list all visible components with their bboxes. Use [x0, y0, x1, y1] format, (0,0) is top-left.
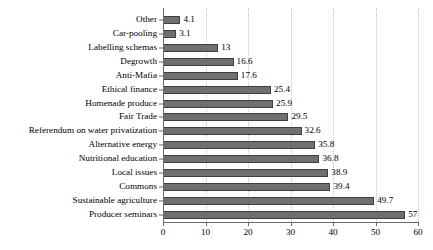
category-label: Sustainable agriculture	[73, 196, 157, 205]
bar-rows: Other4.1Car-pooling3.1Labelling schemas1…	[163, 8, 418, 222]
category-label: Degrowth	[120, 57, 157, 66]
category-label: Labelling schemas	[88, 43, 157, 52]
bar: 36.8	[163, 155, 319, 163]
bar-row: Other4.1	[163, 13, 418, 27]
bar-value-label: 4.1	[183, 16, 194, 25]
bar-value-label: 35.8	[318, 141, 334, 150]
bar-row: Local issues38.9	[163, 166, 418, 180]
x-tick-mark	[163, 222, 164, 226]
gridline	[418, 8, 419, 222]
bar-row: Referendum on water privatization32.6	[163, 124, 418, 138]
bar-value-label: 32.6	[305, 127, 321, 136]
bar-row: Labelling schemas13	[163, 41, 418, 55]
category-label: Producer seminars	[89, 210, 157, 219]
x-tick-label: 10	[201, 228, 210, 237]
category-label: Nutritional education	[79, 155, 157, 164]
bar-row: Anti-Mafia17.6	[163, 69, 418, 83]
category-label: Other	[136, 16, 157, 25]
bar: 57	[163, 211, 405, 219]
bar: 39.4	[163, 183, 330, 191]
bar-value-label: 36.8	[322, 155, 338, 164]
category-label: Homenade produce	[85, 99, 157, 108]
category-label: Fair Trade	[119, 113, 157, 122]
bar: 38.9	[163, 169, 328, 177]
x-tick-label: 60	[413, 228, 422, 237]
bar-row: Nutritional education36.8	[163, 152, 418, 166]
bar-value-label: 25.9	[276, 99, 292, 108]
x-tick-label: 0	[161, 228, 166, 237]
bar: 13	[163, 44, 218, 52]
bar-value-label: 3.1	[179, 29, 190, 38]
bar-row: Homenade produce25.9	[163, 97, 418, 111]
plot-area: Other4.1Car-pooling3.1Labelling schemas1…	[163, 8, 418, 222]
category-label: Ethical finance	[102, 85, 157, 94]
category-label: Local issues	[112, 168, 157, 177]
bar-row: Fair Trade29.5	[163, 111, 418, 125]
category-axis-line	[163, 8, 164, 222]
horizontal-bar-chart: Other4.1Car-pooling3.1Labelling schemas1…	[0, 0, 433, 250]
bar-value-label: 16.6	[237, 57, 253, 66]
x-tick-label: 20	[243, 228, 252, 237]
bar-value-label: 39.4	[333, 182, 349, 191]
x-tick-mark	[291, 222, 292, 226]
x-tick-label: 30	[286, 228, 295, 237]
bar: 25.4	[163, 86, 271, 94]
bar: 35.8	[163, 141, 315, 149]
category-label: Car-pooling	[113, 29, 157, 38]
x-tick-mark	[248, 222, 249, 226]
bar-row: Degrowth16.6	[163, 55, 418, 69]
bar-row: Car-pooling3.1	[163, 27, 418, 41]
bar-value-label: 57	[408, 210, 417, 219]
bar-value-label: 29.5	[291, 113, 307, 122]
x-tick-mark	[206, 222, 207, 226]
category-label: Commons	[119, 182, 157, 191]
bar: 3.1	[163, 30, 176, 38]
x-tick-mark	[376, 222, 377, 226]
bar-value-label: 17.6	[241, 71, 257, 80]
bar-row: Alternative energy35.8	[163, 138, 418, 152]
x-tick-mark	[333, 222, 334, 226]
bar: 25.9	[163, 100, 273, 108]
bar: 29.5	[163, 113, 288, 121]
bar-value-label: 13	[221, 43, 230, 52]
category-label: Alternative energy	[89, 141, 157, 150]
bar: 16.6	[163, 58, 234, 66]
x-tick-mark	[418, 222, 419, 226]
bar: 17.6	[163, 72, 238, 80]
bar-row: Sustainable agriculture49.7	[163, 194, 418, 208]
x-axis-ticks: 0102030405060	[163, 222, 419, 250]
bar-value-label: 49.7	[377, 196, 393, 205]
bar-row: Producer seminars57	[163, 208, 418, 222]
bar-row: Commons39.4	[163, 180, 418, 194]
bar-value-label: 38.9	[331, 168, 347, 177]
bar: 4.1	[163, 16, 180, 24]
category-label: Referendum on water privatization	[29, 127, 157, 136]
bar-row: Ethical finance25.4	[163, 83, 418, 97]
bar: 49.7	[163, 197, 374, 205]
x-tick-label: 40	[328, 228, 337, 237]
bar: 32.6	[163, 127, 302, 135]
x-tick-label: 50	[371, 228, 380, 237]
bar-value-label: 25.4	[274, 85, 290, 94]
category-label: Anti-Mafia	[116, 71, 157, 80]
